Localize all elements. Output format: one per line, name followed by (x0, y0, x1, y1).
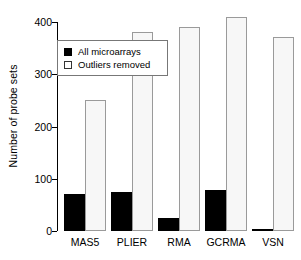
y-axis-tick: 200 (0, 122, 52, 132)
bar-mas5-outliers-removed (85, 100, 106, 231)
y-axis-tick-mark (52, 127, 57, 128)
legend-label-outliers-removed: Outliers removed (78, 59, 150, 70)
y-axis-tick-mark (52, 179, 57, 180)
y-axis-tick-label: 300 (26, 69, 52, 79)
bar-group (205, 8, 247, 231)
y-axis-tick: 100 (0, 174, 52, 184)
bar-gcrma-all-microarrays (205, 190, 226, 231)
bar-chart: Number of probe sets 0100200300400 MAS5P… (0, 0, 301, 260)
y-axis-tick-mark (52, 22, 57, 23)
bar-plier-all-microarrays (111, 192, 132, 231)
bar-vsn-outliers-removed (273, 37, 294, 231)
bar-gcrma-outliers-removed (226, 17, 247, 231)
x-axis-label-mas5: MAS5 (58, 236, 112, 248)
bar-mas5-all-microarrays (64, 194, 85, 231)
x-axis-label-rma: RMA (152, 236, 206, 248)
y-axis-label: Number of probe sets (6, 0, 20, 232)
legend-swatch-filled-square-icon (64, 48, 72, 56)
bar-group (252, 8, 294, 231)
bar-rma-all-microarrays (158, 218, 179, 231)
legend-item-all-microarrays: All microarrays (64, 45, 161, 58)
bar-rma-outliers-removed (179, 27, 200, 231)
x-axis-label-gcrma: GCRMA (199, 236, 253, 248)
y-axis-tick: 400 (0, 17, 52, 27)
y-axis-tick: 300 (0, 69, 52, 79)
y-axis-tick-label: 400 (26, 17, 52, 27)
legend-label-all-microarrays: All microarrays (78, 46, 141, 57)
y-axis-tick: 0 (0, 226, 52, 236)
y-axis-tick-mark (52, 231, 57, 232)
y-axis-tick-label: 200 (26, 122, 52, 132)
x-axis-label-vsn: VSN (246, 236, 300, 248)
legend-swatch-open-square-icon (64, 61, 72, 69)
legend-item-outliers-removed: Outliers removed (64, 58, 161, 71)
y-axis-tick-label: 0 (26, 226, 52, 236)
chart-legend: All microarrays Outliers removed (57, 40, 168, 76)
y-axis-tick-label: 100 (26, 174, 52, 184)
bar-vsn-all-microarrays (252, 229, 273, 231)
x-axis-label-plier: PLIER (105, 236, 159, 248)
